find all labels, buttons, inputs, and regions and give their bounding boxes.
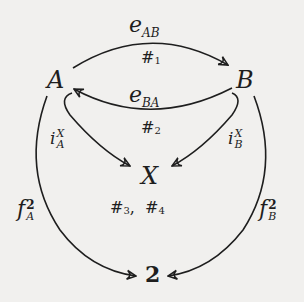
label-i-b: iXB [228,128,243,150]
arrow-i-a [64,93,130,166]
label-e-ba: eBA [129,84,160,109]
commutative-diagram: A B X 2 eAB #1 eBA #2 iXA iXB #3, #4 f2A… [0,0,304,302]
arrow-f-a [36,96,136,276]
label-f-a: f2A [17,198,35,222]
label-i-a: iXA [50,128,64,150]
diagram-arrows [0,0,304,302]
node-b: B [236,68,254,92]
note-3-4: #3, #4 [110,200,165,216]
arrow-f-b [168,96,266,276]
node-a: A [47,68,64,92]
label-f-b: f2B [259,198,277,222]
node-two: 2 [145,263,160,285]
node-x: X [141,164,158,188]
note-2: #2 [141,120,161,136]
note-1: #1 [141,50,161,66]
label-e-ab: eAB [129,14,160,39]
